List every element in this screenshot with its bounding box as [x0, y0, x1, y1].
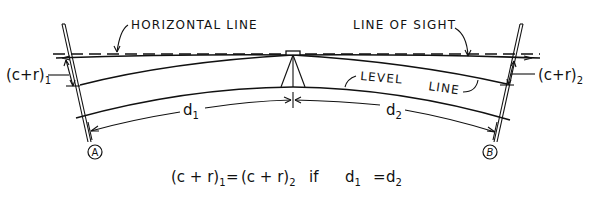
- equation-rhs: (c + r)2: [241, 168, 296, 188]
- leveling-curvature-refraction-diagram: HORIZONTAL LINE LINE OF SIGHT LEVEL LINE…: [0, 0, 593, 199]
- point-a-marker: A: [88, 145, 102, 159]
- horizontal-line-label: HORIZONTAL LINE: [131, 18, 258, 32]
- equation-lhs: (c + r)1: [171, 168, 226, 188]
- d2-label: d2: [386, 101, 402, 121]
- equation-if: if: [309, 168, 319, 186]
- line-label: LINE: [428, 79, 461, 97]
- equation-d1: d1: [345, 168, 361, 188]
- equation-equals-1: =: [226, 168, 239, 186]
- cr1-label: (c+r)1: [6, 66, 51, 86]
- level-label: LEVEL: [360, 69, 404, 87]
- equation-equals-2: =: [373, 168, 386, 186]
- point-b-marker: B: [483, 145, 497, 159]
- d1-label: d1: [183, 101, 199, 121]
- line-of-sight-label: LINE OF SIGHT: [353, 18, 456, 32]
- level-label-leader: [345, 76, 356, 87]
- cr2-dimension: [500, 61, 535, 85]
- equation-d2: d2: [386, 168, 402, 188]
- level-instrument: [281, 51, 305, 108]
- line-label-leader: [463, 80, 478, 92]
- cr2-label: (c+r)2: [538, 66, 583, 86]
- point-a-label: A: [92, 147, 99, 158]
- point-b-label: B: [487, 147, 494, 158]
